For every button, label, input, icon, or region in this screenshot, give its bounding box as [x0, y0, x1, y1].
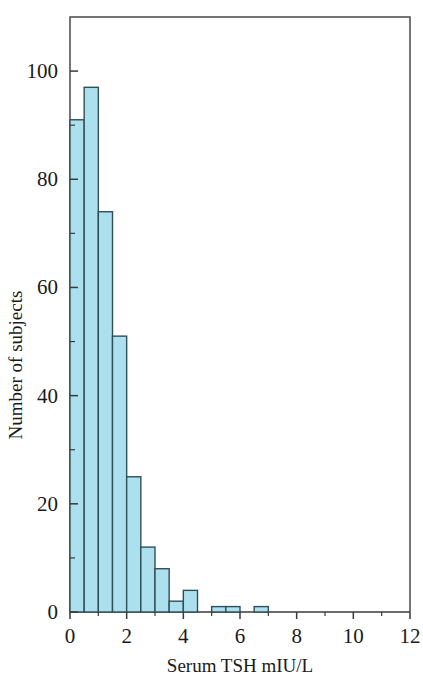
y-tick-label: 20 [37, 492, 58, 516]
histogram-figure: 024681012 020406080100 Serum TSH mIU/L N… [0, 0, 423, 681]
x-tick-label: 4 [178, 624, 189, 648]
histogram-bar [212, 607, 226, 612]
y-tick-label: 100 [27, 59, 59, 83]
x-axis-ticks [70, 612, 410, 619]
histogram-bar [254, 607, 268, 612]
histogram-bar [70, 120, 84, 612]
x-axis-tick-labels: 024681012 [65, 624, 421, 648]
y-tick-label: 60 [37, 275, 58, 299]
histogram-bar [98, 212, 112, 612]
histogram-bar [141, 547, 155, 612]
x-tick-label: 6 [235, 624, 246, 648]
histogram-bar [155, 569, 169, 612]
histogram-bar [127, 477, 141, 612]
histogram-bar [113, 336, 127, 612]
chart-canvas: 024681012 020406080100 Serum TSH mIU/L N… [0, 0, 423, 681]
x-axis-label: Serum TSH mIU/L [167, 655, 313, 676]
bars-group [70, 87, 268, 612]
histogram-bar [226, 607, 240, 612]
y-tick-label: 0 [48, 600, 59, 624]
histogram-bar [183, 590, 197, 612]
x-tick-label: 10 [343, 624, 364, 648]
y-tick-label: 40 [37, 384, 58, 408]
x-tick-label: 2 [121, 624, 132, 648]
x-tick-label: 8 [291, 624, 302, 648]
histogram-bar [84, 87, 98, 612]
y-axis-label: Number of subjects [5, 291, 26, 440]
x-tick-label: 0 [65, 624, 76, 648]
x-tick-label: 12 [400, 624, 421, 648]
y-axis-tick-labels: 020406080100 [27, 59, 59, 624]
histogram-bar [169, 601, 183, 612]
y-tick-label: 80 [37, 167, 58, 191]
